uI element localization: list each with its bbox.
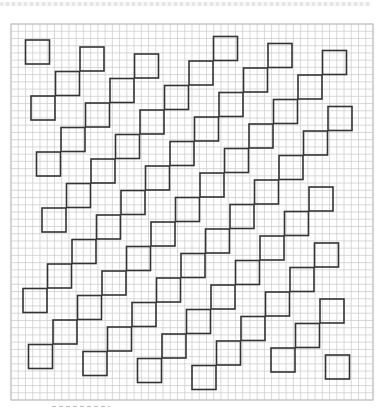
motif-square [315, 243, 339, 267]
motif-square [274, 100, 298, 124]
motif-square [244, 68, 268, 92]
motif-square [249, 124, 273, 148]
motif-square [72, 240, 96, 264]
motif-square [200, 173, 224, 197]
motif-square [192, 366, 216, 390]
motif-square [146, 166, 170, 190]
motif-square [31, 96, 55, 120]
motif-square [323, 51, 347, 75]
motif-square [116, 135, 140, 159]
motif-square [162, 334, 186, 358]
motif-square [23, 289, 47, 313]
motif-square [157, 278, 181, 302]
motif-square [298, 75, 322, 99]
motif-square [326, 355, 350, 379]
graph-paper-canvas [0, 0, 388, 417]
motif-square [241, 317, 265, 341]
square-chain-pattern [23, 37, 352, 390]
motif-square [189, 61, 213, 85]
motif-square [176, 198, 200, 222]
motif-square [328, 107, 352, 131]
motif-square [67, 184, 91, 208]
motif-square [320, 299, 344, 323]
motif-square [271, 348, 295, 372]
motif-square [170, 142, 194, 166]
motif-square [285, 212, 309, 236]
motif-square [91, 159, 115, 183]
motif-square [127, 247, 151, 271]
footer-dash-mark [52, 406, 110, 407]
motif-square [230, 205, 254, 229]
motif-square [97, 215, 121, 239]
motif-square [214, 37, 238, 61]
motif-square [304, 131, 328, 155]
motif-square [236, 261, 260, 285]
motif-square [140, 110, 164, 134]
motif-square [53, 320, 77, 344]
motif-square [211, 285, 235, 309]
motif-square [86, 103, 110, 127]
motif-square [255, 180, 279, 204]
motif-square [42, 208, 66, 232]
